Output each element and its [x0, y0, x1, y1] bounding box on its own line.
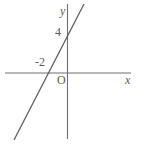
y-axis-label: y [60, 5, 65, 17]
x-intercept-tick-label: -2 [35, 56, 45, 68]
linear-function-line [14, 4, 84, 140]
origin-label: O [57, 74, 66, 86]
coordinate-plane-svg [0, 0, 142, 144]
math-figure-coordinate-plane: y x 4 -2 O [0, 0, 142, 144]
x-axis-label: x [125, 74, 130, 86]
y-intercept-tick-label: 4 [55, 26, 61, 38]
